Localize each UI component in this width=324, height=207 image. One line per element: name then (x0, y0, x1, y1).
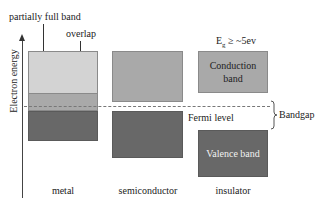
metal-partially-full-band (28, 51, 98, 94)
y-axis (22, 40, 23, 198)
partially-full-band-label: partially full band (9, 12, 81, 22)
fermi-level-line (24, 106, 270, 107)
metal-valence-band (28, 111, 98, 141)
bandgap-energy-label: Eg ≥ ~5ev (216, 36, 256, 49)
insulator-conduction-band: Conduction band (198, 51, 268, 93)
bandgap-label: Bandgap (279, 110, 315, 120)
y-axis-arrow-icon (19, 34, 25, 41)
semiconductor-valence-band (112, 111, 183, 158)
y-axis-label: Electron energy (9, 45, 19, 117)
fermi-level-label: Fermi level (188, 113, 234, 123)
material-label-metal: metal (43, 186, 83, 196)
material-label-semiconductor: semiconductor (113, 186, 183, 196)
insulator-valence-band: Valence band (198, 130, 268, 177)
bandgap-bracket-icon (270, 100, 278, 130)
material-label-insulator: insulator (203, 186, 263, 196)
semiconductor-conduction-band (112, 51, 183, 102)
overlap-label: overlap (66, 29, 96, 39)
metal-overlap-band (28, 93, 98, 111)
